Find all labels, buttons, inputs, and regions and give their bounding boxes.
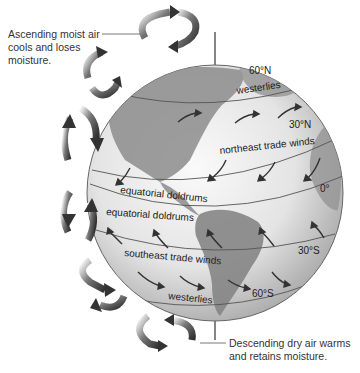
descending-air-annotation: Descending dry air warms and retains moi… [229, 337, 350, 363]
circulation-cell-polar-south [139, 314, 192, 352]
wind-circulation-diagram: 60°N westerlies 30°N northeast trade win… [0, 0, 360, 373]
lat-30n-label: 30°N [289, 119, 311, 130]
lat-30s-label: 30°S [298, 245, 320, 256]
ascending-line-2: cools and loses [8, 41, 100, 54]
equator-label: 0° [320, 183, 330, 194]
ascending-air-annotation: Ascending moist air cools and loses mois… [8, 28, 100, 67]
lat-60n-label: 60°N [249, 65, 271, 76]
circulation-cell-polar-north [142, 5, 196, 53]
globe: 60°N westerlies 30°N northeast trade win… [87, 65, 343, 321]
ascending-line-3: moisture. [8, 54, 100, 67]
descending-line-1: Descending dry air warms [229, 337, 350, 350]
descending-line-2: and retains moisture. [229, 350, 350, 363]
ascending-line-1: Ascending moist air [8, 28, 100, 41]
lat-60s-label: 60°S [252, 288, 274, 299]
